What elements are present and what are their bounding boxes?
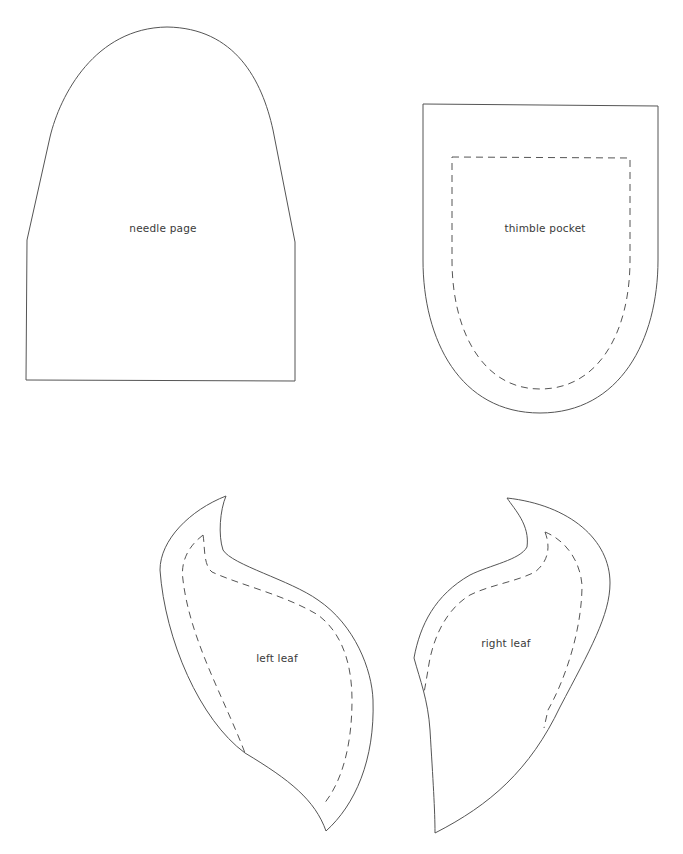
thimble-pocket-cut-line: [423, 104, 658, 413]
left-leaf-label: left leaf: [256, 652, 298, 664]
right-leaf-seam-line: [424, 532, 548, 693]
right-leaf-piece: [414, 498, 610, 833]
needle-page-piece: [26, 27, 295, 381]
right-leaf-seam-line-outer: [544, 532, 582, 728]
right-leaf-cut-line: [414, 498, 610, 833]
pattern-sheet: [0, 0, 683, 854]
left-leaf-seam-line: [203, 535, 352, 805]
needle-page-cut-line: [26, 27, 295, 381]
right-leaf-label: right leaf: [481, 637, 531, 649]
thimble-pocket-piece: [423, 104, 658, 413]
thimble-pocket-label: thimble pocket: [504, 222, 585, 234]
thimble-pocket-seam-line: [452, 157, 630, 389]
needle-page-label: needle page: [129, 222, 196, 234]
